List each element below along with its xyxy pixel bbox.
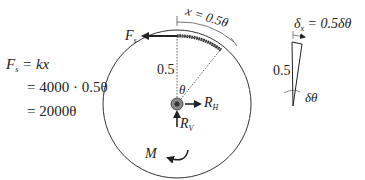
displacement-value: = 0.5δθ	[304, 16, 351, 31]
equation-fs-symbol: F	[6, 56, 15, 72]
inset-angle-label: δθ	[305, 91, 317, 104]
spring-force-subscript: s	[134, 36, 137, 45]
moment-label: M	[145, 147, 157, 161]
inset-wedge	[292, 42, 302, 106]
moment-arrow	[168, 150, 188, 160]
angle-label: θ	[179, 83, 185, 96]
spring-coil	[177, 36, 221, 50]
spring-force-label: Fs	[125, 29, 137, 45]
inset-displacement-label: δx = 0.5δθ	[294, 17, 351, 33]
spring-force-symbol: F	[125, 28, 134, 43]
rv-symbol: R	[180, 116, 189, 131]
rh-symbol: R	[204, 95, 213, 110]
hub-inner	[175, 102, 180, 107]
vertical-reaction-label: RV	[180, 117, 193, 133]
inset-displacement-dimension	[293, 35, 305, 37]
equation-line-2: = 4000 · 0.5θ	[27, 80, 108, 95]
equation-line-1: Fs = kx	[6, 57, 49, 74]
equation-kx: = kx	[18, 56, 49, 72]
rv-subscript: V	[189, 124, 194, 133]
horizontal-reaction-label: RH	[204, 96, 218, 112]
inset-radius-label: 0.5	[273, 64, 291, 78]
rh-subscript: H	[213, 103, 219, 112]
equation-line-3: = 2000θ	[27, 104, 76, 119]
radius-label: 0.5	[157, 63, 175, 77]
inset-angle-arc	[284, 90, 300, 93]
